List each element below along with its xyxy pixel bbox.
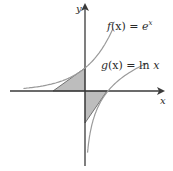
- g-label-var: x: [150, 59, 160, 72]
- g-label-arg: (x) =: [108, 59, 139, 72]
- f-label: f(x) = ex: [106, 19, 153, 33]
- x-axis-label: x: [160, 95, 166, 106]
- g-label: g(x) = ln x: [101, 59, 160, 72]
- graph: y x f(x) = ex g(x) = ln x: [0, 0, 173, 171]
- g-label-expr: ln: [139, 59, 150, 72]
- y-axis-label: y: [75, 3, 82, 14]
- f-label-sup: x: [149, 19, 153, 27]
- g-label-name: g: [101, 59, 108, 72]
- f-label-arg: (x) =: [111, 20, 142, 33]
- curve-exp: [23, 29, 113, 89]
- curve-ln: [88, 63, 148, 153]
